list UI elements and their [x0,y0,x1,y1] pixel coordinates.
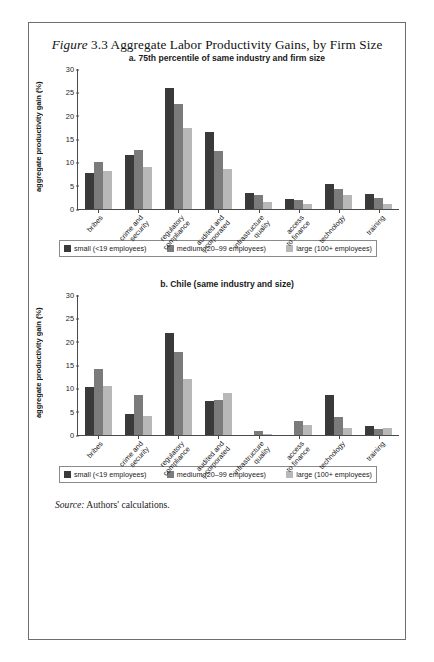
bar [103,171,112,209]
x-axis-label: training [365,440,387,463]
bar [103,386,112,435]
panel-b-plot-wrap: aggregate productivity gain (%) 05101520… [29,289,407,464]
bar-group [319,295,359,435]
bar-group [359,295,399,435]
bar-group [239,295,279,435]
bar [214,151,223,209]
bar [374,429,383,435]
legend-swatch-icon [64,245,71,252]
bar [183,128,192,209]
bar-group [239,69,279,209]
bar [174,352,183,435]
x-axis-label-cell: bribes [77,439,117,483]
bar-group [158,69,198,209]
panel-b-plot-area: 051015202530 [77,295,399,436]
panel-a-x-axis-labels: bribescrime andsecurityregulatorycomplia… [77,213,399,257]
x-axis-label-cell: audited andincorporated [198,439,238,483]
figure-title: Figure 3.3 Aggregate Labor Productivity … [29,37,405,53]
bar [325,395,334,435]
x-axis-label: accessto finance [279,440,312,474]
x-axis-label: technology [317,440,346,471]
x-axis-label: accessto finance [279,214,312,248]
bar [143,416,152,435]
bar [205,401,214,435]
panel-a-y-axis-label: aggregate productivity gain (%) [31,63,45,211]
bar-group [359,69,399,209]
panel-a-plot-wrap: aggregate productivity gain (%) 05101520… [29,63,407,238]
x-axis-label-cell: training [359,213,399,257]
x-axis-label: infrastructurequality [232,214,272,256]
bar [165,333,174,435]
x-axis-label-cell: training [359,439,399,483]
bar-group [319,69,359,209]
x-axis-label: audited andincorporated [193,440,232,481]
bar [143,167,152,209]
bar [383,428,392,435]
x-axis-label: bribes [86,440,105,460]
bar [134,150,143,209]
x-axis-label-cell: regulatorycompliance [158,439,198,483]
figure-title-text: Aggregate Labor Productivity Gains, by F… [111,37,383,52]
x-axis-label-cell: accessto finance [278,213,318,257]
bar [383,204,392,209]
y-axis-tick: 5 [70,181,78,190]
bar [125,155,134,209]
y-axis-tick: 25 [66,88,78,97]
x-axis-label: crime andsecurity [118,214,151,248]
bar [294,200,303,209]
source-label: Source: [55,499,84,510]
bar [374,198,383,209]
y-axis-tick: 25 [66,314,78,323]
bar [223,169,232,209]
bar [334,417,343,435]
x-axis-label: regulatorycompliance [155,440,192,478]
bar [285,199,294,209]
y-axis-tick: 20 [66,111,78,120]
y-axis-tick: 10 [66,158,78,167]
y-axis-tick: 15 [66,135,78,144]
panel-a-title: a. 75th percentile of same industry and … [47,53,407,63]
figure-box: Figure 3.3 Aggregate Labor Productivity … [28,22,406,640]
bar [223,393,232,435]
bar [165,88,174,209]
x-axis-label: regulatorycompliance [155,214,192,252]
bar [94,369,103,435]
bar [303,425,312,435]
x-axis-label-cell: accessto finance [278,439,318,483]
source-text: Authors' calculations. [86,499,169,510]
bar-group [279,69,319,209]
panel-b-x-axis-labels: bribescrime andsecurityregulatorycomplia… [77,439,399,483]
legend-swatch-icon [64,471,71,478]
x-axis-label: infrastructurequality [232,440,272,482]
x-axis-label-cell: technology [319,213,359,257]
bar [365,194,374,209]
x-axis-label-cell: infrastructurequality [238,439,278,483]
bar-group [78,69,118,209]
bar [174,104,183,209]
bar [294,421,303,435]
bar [245,193,254,209]
bar [94,162,103,209]
panel-b: b. Chile (same industry and size) aggreg… [29,279,407,483]
bar-group [198,295,238,435]
bar-group [118,69,158,209]
bar-group [78,295,118,435]
x-axis-label: bribes [86,214,105,234]
x-axis-label-cell: regulatorycompliance [158,213,198,257]
bar [263,202,272,209]
x-axis-label-cell: bribes [77,213,117,257]
x-axis-label-cell: technology [319,439,359,483]
x-axis-label-cell: crime andsecurity [117,439,157,483]
bar [85,173,94,209]
source-note: Source: Authors' calculations. [55,499,405,510]
y-axis-tick: 20 [66,337,78,346]
x-axis-label-cell: audited andincorporated [198,213,238,257]
bar [134,395,143,435]
bar-group [279,295,319,435]
bar [343,428,352,435]
y-axis-tick: 5 [70,407,78,416]
bar [254,431,263,435]
bar-group [158,295,198,435]
figure-number: 3.3 [91,37,108,52]
x-axis-label-cell: crime andsecurity [117,213,157,257]
